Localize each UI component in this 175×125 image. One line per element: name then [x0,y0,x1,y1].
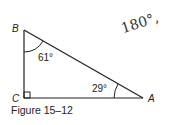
right-angle-marker [24,92,30,98]
vertex-label-c: C [12,94,19,104]
figure-caption: Figure 15–12 [11,104,73,116]
angle-label-b: 61° [38,53,53,63]
vertex-label-b: B [12,24,19,34]
angle-label-a: 29° [92,84,107,94]
vertex-label-a: A [148,94,155,104]
angle-arc-b [24,41,43,52]
angle-arc-a [114,84,118,98]
side-ab [24,30,143,98]
